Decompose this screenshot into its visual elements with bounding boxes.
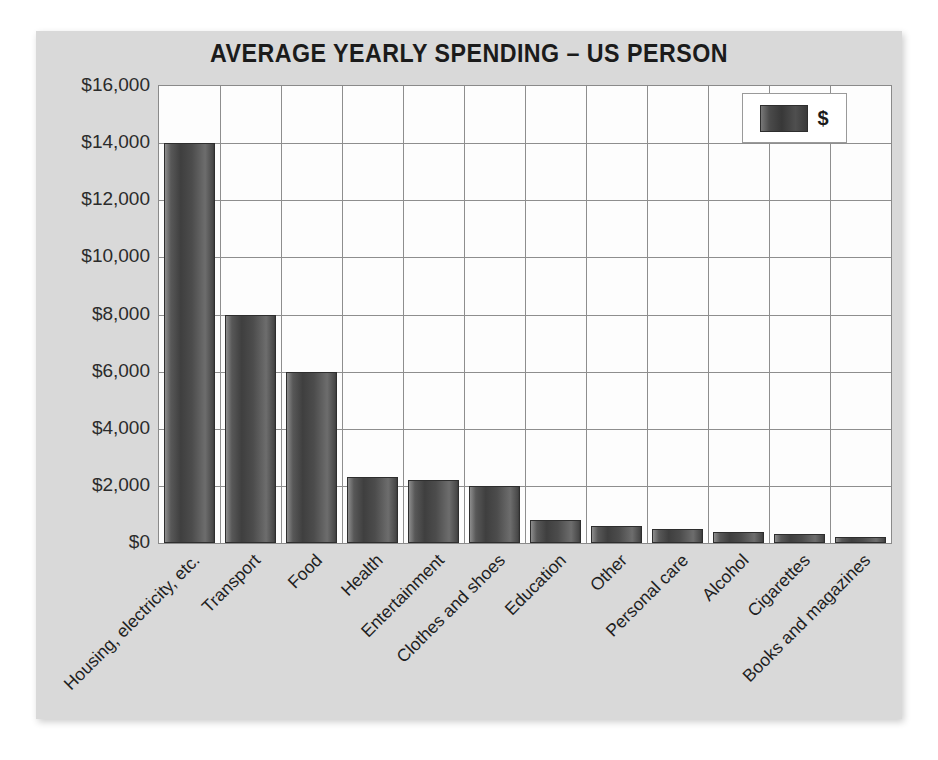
y-tick-label: $4,000 (38, 417, 150, 439)
y-tick-label: $2,000 (38, 474, 150, 496)
gridline-vertical (281, 86, 282, 543)
chart-panel: AVERAGE YEARLY SPENDING – US PERSON $16,… (36, 31, 902, 719)
gridline-vertical (403, 86, 404, 543)
y-tick-label: $14,000 (38, 131, 150, 153)
x-tick-label: Transport (198, 550, 265, 617)
legend-label: $ (817, 107, 828, 130)
gridline-vertical (220, 86, 221, 543)
gridline-vertical (342, 86, 343, 543)
y-tick-label: $16,000 (38, 74, 150, 96)
gridline-vertical (830, 86, 831, 543)
gridline-vertical (525, 86, 526, 543)
x-tick-label: Health (337, 550, 388, 601)
y-tick-label: $12,000 (38, 188, 150, 210)
y-axis: $16,000$14,000$12,000$10,000$8,000$6,000… (36, 85, 150, 542)
x-tick-label: Housing, electricity, etc. (60, 550, 205, 695)
chart-page: AVERAGE YEARLY SPENDING – US PERSON $16,… (0, 0, 938, 760)
plot-area (158, 85, 892, 544)
y-tick-label: $6,000 (38, 360, 150, 382)
x-tick-label: Education (500, 550, 570, 620)
x-tick-label: Alcohol (698, 550, 753, 605)
chart-title: AVERAGE YEARLY SPENDING – US PERSON (66, 39, 871, 68)
x-tick-label: Other (586, 550, 632, 596)
x-tick-label: Clothes and shoes (392, 550, 509, 667)
gridline-vertical (464, 86, 465, 543)
x-tick-label: Food (283, 550, 326, 593)
legend-swatch-dollar (760, 105, 808, 132)
y-tick-label: $0 (38, 531, 150, 553)
x-axis: Housing, electricity, etc.TransportFoodH… (159, 544, 891, 724)
gridline-vertical (647, 86, 648, 543)
gridline-vertical (586, 86, 587, 543)
gridline-vertical (769, 86, 770, 543)
legend: $ (742, 93, 847, 143)
y-tick-label: $10,000 (38, 245, 150, 267)
y-tick-label: $8,000 (38, 303, 150, 325)
gridline-vertical (708, 86, 709, 543)
